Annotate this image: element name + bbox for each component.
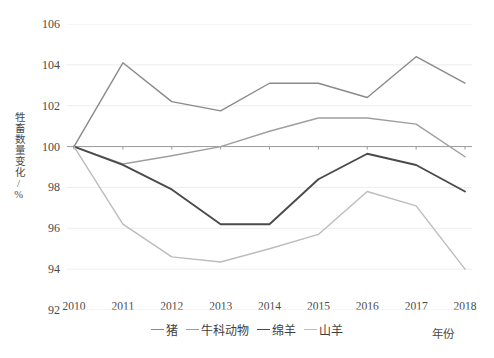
- chart-legend: 猪牛科动物绵羊山羊: [0, 322, 494, 338]
- legend-item[interactable]: 牛科动物: [186, 323, 249, 338]
- y-tick-label: 104: [26, 59, 60, 71]
- legend-label: 绵羊: [272, 324, 296, 338]
- legend-item[interactable]: 绵羊: [257, 323, 296, 338]
- legend-label: 牛科动物: [201, 324, 249, 338]
- chart-title: [0, 0, 494, 9]
- y-tick-label: 100: [26, 141, 60, 153]
- legend-item[interactable]: 山羊: [304, 323, 343, 338]
- plot-svg: [67, 24, 472, 310]
- y-tick-label: 102: [26, 100, 60, 112]
- y-tick-label: 106: [26, 18, 60, 30]
- livestock-change-line-chart: 牲畜数量变化/% 92949698100102104106 2010201120…: [0, 0, 494, 358]
- series-line: [74, 118, 465, 164]
- series-line: [74, 147, 465, 270]
- plot-area: [67, 24, 472, 310]
- legend-label: 山羊: [319, 324, 343, 338]
- y-tick-label: 94: [26, 263, 60, 275]
- y-tick-label: 98: [26, 181, 60, 193]
- legend-item[interactable]: 猪: [151, 323, 178, 338]
- series-line: [74, 57, 465, 147]
- y-axis-title: 牲畜数量变化/%: [11, 112, 25, 200]
- legend-label: 猪: [166, 324, 178, 338]
- legend-line-swatch: [186, 329, 199, 330]
- y-tick-label: 96: [26, 222, 60, 234]
- legend-line-swatch: [304, 329, 317, 330]
- series-line: [74, 147, 465, 225]
- legend-line-swatch: [151, 329, 164, 330]
- legend-line-swatch: [257, 329, 270, 330]
